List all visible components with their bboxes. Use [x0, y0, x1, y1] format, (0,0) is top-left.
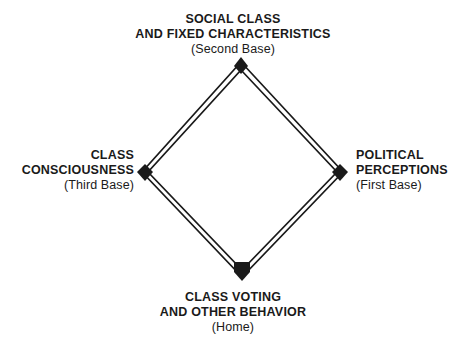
- label-home-base: (Home): [0, 320, 466, 335]
- label-second-base-line1: SOCIAL CLASS: [0, 12, 466, 27]
- label-third-base-base: (Third Base): [8, 178, 134, 193]
- home-plate-marker: [234, 262, 250, 281]
- vertex-markers: [137, 57, 348, 281]
- label-home-line1: CLASS VOTING: [0, 290, 466, 305]
- label-first-base: POLITICAL PERCEPTIONS (First Base): [356, 148, 466, 192]
- label-home: CLASS VOTING AND OTHER BEHAVIOR (Home): [0, 290, 466, 334]
- label-third-base-line2: CONSCIOUSNESS: [8, 163, 134, 178]
- diamond-edges-outer: [142, 62, 343, 277]
- label-third-base-line1: CLASS: [8, 148, 134, 163]
- first-base-marker: [332, 164, 348, 181]
- third-base-marker: [137, 164, 153, 181]
- label-first-base-line1: POLITICAL: [356, 148, 466, 163]
- diagram-canvas: SOCIAL CLASS AND FIXED CHARACTERISTICS (…: [0, 0, 466, 349]
- label-first-base-line2: PERCEPTIONS: [356, 163, 466, 178]
- label-first-base-base: (First Base): [356, 178, 466, 193]
- label-second-base-line2: AND FIXED CHARACTERISTICS: [0, 27, 466, 42]
- label-second-base: SOCIAL CLASS AND FIXED CHARACTERISTICS (…: [0, 12, 466, 56]
- label-second-base-base: (Second Base): [0, 42, 466, 57]
- label-home-line2: AND OTHER BEHAVIOR: [0, 305, 466, 320]
- diamond-edges-inner: [148, 70, 337, 270]
- label-third-base: CLASS CONSCIOUSNESS (Third Base): [8, 148, 134, 192]
- second-base-marker: [234, 57, 248, 74]
